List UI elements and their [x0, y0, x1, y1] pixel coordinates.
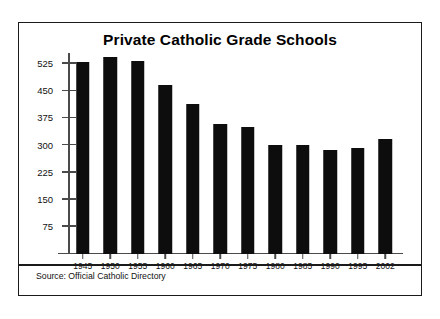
x-tick-1945: [82, 254, 84, 259]
x-tick-label: 1990: [321, 261, 340, 271]
x-tick-label: 1960: [156, 261, 175, 271]
x-tick-label: 1995: [348, 261, 367, 271]
x-tick-1980: [275, 254, 277, 259]
y-tick-label: 375: [37, 112, 53, 123]
source-note: Source: Official Catholic Directory: [36, 271, 166, 281]
x-tick-label: 1945: [73, 261, 92, 271]
y-tick-label: 225: [37, 166, 53, 177]
x-tick-1990: [330, 254, 332, 259]
bar-group: 2002: [372, 53, 400, 254]
x-tick-1985: [302, 254, 304, 259]
bar-group: 1950: [97, 53, 125, 254]
bar-1945: [76, 62, 90, 254]
x-tick-label: 2002: [376, 261, 395, 271]
x-tick-1965: [192, 254, 194, 259]
bar-group: 1955: [124, 53, 152, 254]
x-tick-label: 1985: [293, 261, 312, 271]
plot-area: 75150225300375450525 1945195019551960196…: [68, 53, 398, 254]
bar-group: 1965: [179, 53, 207, 254]
bar-1960: [159, 85, 173, 254]
chart-title: Private Catholic Grade Schools: [19, 31, 421, 49]
bar-1980: [269, 145, 283, 254]
bar-group: 1990: [317, 53, 345, 254]
y-tick-label: 150: [37, 193, 53, 204]
bar-1950: [104, 57, 118, 254]
bar-group: 1970: [207, 53, 235, 254]
bar-group: 1985: [289, 53, 317, 254]
x-tick-1995: [357, 254, 359, 259]
x-tick-label: 1970: [211, 261, 230, 271]
chart-figure: Private Catholic Grade Schools 751502253…: [18, 22, 422, 296]
x-tick-label: 1980: [266, 261, 285, 271]
y-tick-label: 525: [37, 58, 53, 69]
bar-group: 1975: [234, 53, 262, 254]
source-divider: [19, 264, 421, 266]
bar-1970: [214, 124, 228, 254]
x-tick-1960: [165, 254, 167, 259]
x-tick-1950: [110, 254, 112, 259]
bar-group: 1995: [344, 53, 372, 254]
x-tick-1975: [247, 254, 249, 259]
bar-1990: [324, 150, 338, 254]
x-tick-2002: [385, 254, 387, 259]
y-tick-label: 75: [42, 221, 53, 232]
bar-group: 1980: [262, 53, 290, 254]
y-tick-label: 300: [37, 139, 53, 150]
bar-group: 1960: [152, 53, 180, 254]
bar-group: 1945: [69, 53, 97, 254]
x-tick-1970: [220, 254, 222, 259]
x-tick-label: 1955: [128, 261, 147, 271]
x-tick-1955: [137, 254, 139, 259]
x-tick-label: 1950: [101, 261, 120, 271]
bar-1965: [186, 104, 200, 254]
bar-1985: [296, 145, 310, 254]
bar-1995: [351, 148, 365, 254]
bar-1955: [131, 61, 145, 254]
bar-1975: [241, 127, 255, 254]
y-tick-label: 450: [37, 85, 53, 96]
x-tick-label: 1975: [238, 261, 257, 271]
x-tick-label: 1965: [183, 261, 202, 271]
bar-2002: [379, 139, 393, 254]
